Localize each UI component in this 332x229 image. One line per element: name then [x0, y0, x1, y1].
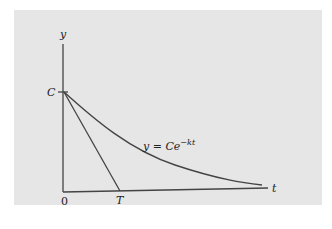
curve-label-exponent: −kt — [180, 138, 196, 147]
y-axis-label: y — [59, 28, 67, 41]
x-axis-label: t — [272, 182, 277, 195]
curve-label: y = Ce−kt — [142, 138, 196, 153]
t-intercept-label: T — [116, 194, 125, 207]
decay-curve — [64, 92, 262, 185]
x-axis — [63, 188, 268, 192]
c-label: C — [47, 86, 56, 99]
origin-label: 0 — [61, 195, 68, 208]
curve-label-main: y = Ce — [142, 140, 181, 153]
exponential-decay-diagram: y t 0 C T y = Ce−kt — [0, 0, 332, 229]
tangent-line — [64, 92, 120, 191]
